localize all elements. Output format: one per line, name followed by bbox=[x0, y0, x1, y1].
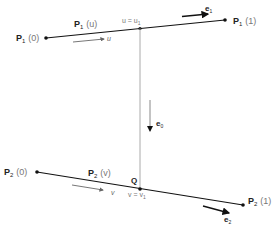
p1-start-point bbox=[44, 36, 48, 40]
q-label: Q bbox=[131, 176, 137, 185]
p1-mid-label: P1(u) bbox=[74, 19, 97, 30]
v-direction-arrow bbox=[72, 185, 103, 190]
u1-point-label: u = u1 bbox=[122, 17, 141, 26]
p1-end-label: P1(1) bbox=[233, 16, 256, 27]
v-direction-label: v bbox=[111, 189, 115, 196]
e0-vector-label: e0 bbox=[156, 119, 163, 129]
p2-start-point bbox=[35, 170, 39, 174]
e1-vector-arrow bbox=[182, 14, 208, 17]
e1-vector-label: e1 bbox=[205, 4, 212, 14]
u-direction-label: u bbox=[107, 35, 111, 42]
p2-end-label: P2(1) bbox=[248, 196, 271, 207]
p2-end-point bbox=[241, 203, 245, 207]
e2-vector-label: e2 bbox=[224, 215, 231, 225]
u-direction-arrow bbox=[73, 39, 104, 42]
p1-end-point bbox=[223, 18, 227, 22]
e2-vector-arrow bbox=[203, 206, 229, 213]
v1-point-label: v = v1 bbox=[128, 191, 146, 200]
skew-lines-diagram: P1(0) P1(u) u u = u1 e1 P1(1) e0 P2(0) P… bbox=[0, 0, 275, 228]
p2-mid-label: P2(v) bbox=[88, 168, 111, 179]
p2-start-label: P2(0) bbox=[4, 167, 27, 178]
p1-start-label: P1(0) bbox=[16, 33, 39, 44]
